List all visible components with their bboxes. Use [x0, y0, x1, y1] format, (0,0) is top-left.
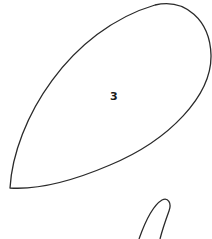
- partial-petal-outline: [139, 199, 170, 239]
- region-label-3: 3: [110, 91, 118, 102]
- diagram-canvas: [0, 0, 212, 239]
